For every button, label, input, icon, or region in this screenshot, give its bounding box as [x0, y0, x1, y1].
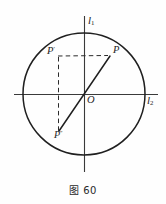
- axis-label-l2: l2: [147, 95, 153, 107]
- point-label-p: P: [113, 45, 119, 56]
- point-label-p-prime: P′: [47, 46, 55, 57]
- point-label-origin: O: [87, 95, 95, 106]
- figure-container: l1 l2 P P′ P″ O 图 60: [0, 0, 166, 204]
- axis-label-l1: l1: [88, 15, 94, 27]
- point-label-p-double-prime: P″: [54, 130, 63, 140]
- geometry-drawing: [0, 0, 166, 204]
- figure-caption: 图 60: [0, 182, 166, 197]
- dashed-segment-p-prime-to-p: [58, 56, 108, 57]
